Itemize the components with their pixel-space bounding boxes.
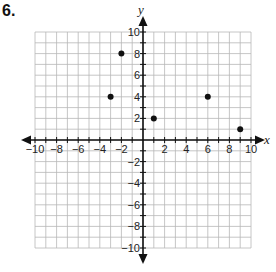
data-point — [237, 126, 243, 132]
y-tick-label: 10 — [128, 26, 140, 38]
y-tick-label: 2 — [134, 112, 140, 124]
coordinate-plane: −10−8−6−4−2246810108642−2−4−6−8−10 x y — [0, 0, 276, 272]
data-point — [151, 115, 157, 121]
y-axis-label: y — [136, 2, 144, 17]
x-tick-label: 8 — [226, 143, 232, 155]
y-tick-label: −10 — [121, 242, 140, 254]
arrow-up-icon — [139, 16, 148, 26]
data-point — [118, 51, 124, 57]
x-tick-label: −2 — [115, 143, 128, 155]
x-axis-label: x — [263, 132, 270, 147]
data-point — [108, 94, 114, 100]
y-tick-label: 8 — [134, 48, 140, 60]
x-tick-label: 2 — [162, 143, 168, 155]
x-tick-label: 6 — [205, 143, 211, 155]
arrow-down-icon — [139, 254, 148, 264]
data-point — [205, 94, 211, 100]
y-tick-label: −2 — [127, 156, 140, 168]
y-tick-label: −8 — [127, 220, 140, 232]
x-tick-label: −6 — [72, 143, 85, 155]
y-tick-label: 4 — [134, 91, 140, 103]
x-tick-label: −8 — [50, 143, 63, 155]
y-tick-label: 6 — [134, 69, 140, 81]
y-tick-label: −4 — [127, 177, 140, 189]
y-tick-label: −6 — [127, 199, 140, 211]
x-tick-label: −10 — [26, 143, 45, 155]
x-tick-label: 10 — [245, 143, 257, 155]
x-tick-label: −4 — [94, 143, 107, 155]
x-tick-label: 4 — [183, 143, 189, 155]
